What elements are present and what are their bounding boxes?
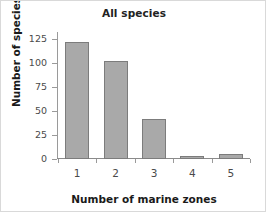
bar-chart-figure: All species Number of species 0255075100… xyxy=(0,0,266,212)
x-tick-mark xyxy=(58,159,59,163)
x-tick-mark xyxy=(250,159,251,163)
x-tick-mark xyxy=(212,159,213,163)
y-tick-label: 100 xyxy=(7,58,47,68)
y-tick-label: 0 xyxy=(7,154,47,164)
chart-title: All species xyxy=(1,7,266,19)
y-tick-mark xyxy=(52,159,57,160)
x-tick-label: 1 xyxy=(65,167,89,179)
x-tick-mark xyxy=(96,159,97,163)
x-tick-label: 5 xyxy=(219,167,243,179)
y-tick-mark xyxy=(52,39,57,40)
y-tick-mark xyxy=(52,135,57,136)
bar xyxy=(65,42,89,159)
bar xyxy=(219,154,243,159)
x-tick-label: 2 xyxy=(104,167,128,179)
x-tick-label: 3 xyxy=(142,167,166,179)
y-tick-mark xyxy=(52,63,57,64)
bar xyxy=(142,119,166,159)
x-tick-mark xyxy=(135,159,136,163)
y-tick-label: 50 xyxy=(7,106,47,116)
y-tick-mark xyxy=(52,87,57,88)
y-tick-mark xyxy=(52,111,57,112)
y-tick-label: 25 xyxy=(7,130,47,140)
x-tick-label: 4 xyxy=(180,167,204,179)
y-tick-label: 75 xyxy=(7,82,47,92)
x-axis-label: Number of marine zones xyxy=(31,193,257,205)
bar xyxy=(104,61,128,159)
bar xyxy=(180,156,204,159)
x-tick-mark xyxy=(173,159,174,163)
y-tick-label: 125 xyxy=(7,34,47,44)
